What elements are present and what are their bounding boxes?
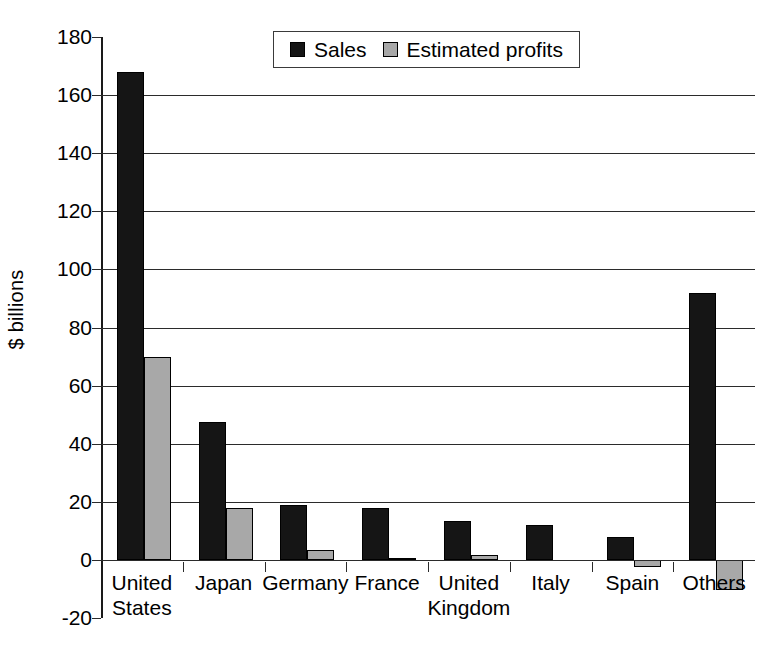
- gridline: [101, 386, 755, 387]
- legend-label: Estimated profits: [407, 38, 563, 62]
- y-axis-tick-label: 180: [20, 26, 92, 47]
- legend-swatch-sales: [290, 42, 305, 57]
- bar-profits: [634, 560, 661, 567]
- bar-profits: [144, 357, 171, 560]
- legend-label: Sales: [314, 38, 367, 62]
- y-axis-tick: [92, 560, 101, 561]
- y-axis-tick-labels: 180160140120100806040200-20: [0, 0, 92, 647]
- y-axis-tick: [92, 328, 101, 329]
- y-axis-tick-label: 0: [20, 549, 92, 570]
- y-axis-tick: [92, 95, 101, 96]
- y-axis-tick-label: 160: [20, 84, 92, 105]
- y-axis-tick: [92, 153, 101, 154]
- y-axis-tick: [92, 37, 101, 38]
- bar-sales: [199, 422, 226, 560]
- gridline: [101, 269, 755, 270]
- bar-sales: [444, 521, 471, 560]
- bar-chart: $ billions 180160140120100806040200-20 S…: [0, 0, 772, 647]
- y-axis-tick: [92, 444, 101, 445]
- y-axis-tick-label: 140: [20, 142, 92, 163]
- y-axis-tick: [92, 386, 101, 387]
- gridline: [101, 328, 755, 329]
- bar-profits: [226, 508, 253, 560]
- y-axis-tick: [92, 502, 101, 503]
- legend-item: Estimated profits: [383, 38, 563, 62]
- bar-sales: [526, 525, 553, 560]
- bar-sales: [607, 537, 634, 560]
- x-axis-category-label: Others: [653, 570, 772, 595]
- zero-baseline: [101, 560, 755, 561]
- bar-sales: [362, 508, 389, 560]
- gridline: [101, 211, 755, 212]
- gridline: [101, 153, 755, 154]
- y-axis-tick-label: 120: [20, 200, 92, 221]
- y-axis-tick-label: 20: [20, 491, 92, 512]
- y-axis-tick: [92, 211, 101, 212]
- bar-sales: [280, 505, 307, 560]
- gridline: [101, 95, 755, 96]
- y-axis-tick-label: 40: [20, 433, 92, 454]
- y-axis-tick: [92, 269, 101, 270]
- plot-area: [101, 37, 755, 618]
- bar-sales: [117, 72, 144, 560]
- chart-legend: SalesEstimated profits: [273, 31, 580, 68]
- bar-sales: [689, 293, 716, 560]
- legend-item: Sales: [290, 38, 367, 62]
- y-axis-tick-label: 80: [20, 317, 92, 338]
- plot-inner: [101, 37, 755, 618]
- y-axis-tick-label: 100: [20, 258, 92, 279]
- y-axis-tick-label: 60: [20, 375, 92, 396]
- bar-profits: [307, 550, 334, 560]
- legend-swatch-profits: [383, 42, 398, 57]
